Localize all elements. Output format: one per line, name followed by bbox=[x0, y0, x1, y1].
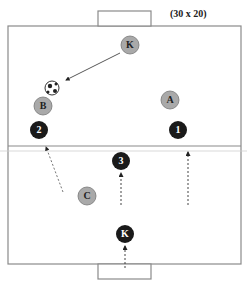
player-k-grey-label: K bbox=[125, 39, 135, 50]
player-2-label: 2 bbox=[34, 124, 44, 135]
player-k-black-label: K bbox=[120, 228, 130, 239]
pass-arrow bbox=[66, 53, 120, 80]
run-arrow-c bbox=[46, 147, 63, 192]
player-1-label: 1 bbox=[173, 124, 183, 135]
player-b-label: B bbox=[38, 100, 48, 111]
ball-icon bbox=[45, 81, 59, 95]
diagram-canvas bbox=[0, 0, 247, 291]
player-a-label: A bbox=[165, 94, 175, 105]
player-3-label: 3 bbox=[116, 155, 126, 166]
top-goal bbox=[98, 11, 151, 26]
player-c-label: C bbox=[82, 190, 92, 201]
field-dimensions: (30 x 20) bbox=[170, 8, 207, 19]
